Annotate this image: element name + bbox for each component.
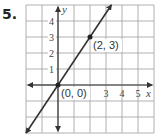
- y-tick-label: 2: [49, 48, 54, 59]
- x-axis-label: x: [145, 87, 151, 99]
- x-tick-label: 3: [104, 88, 109, 99]
- coordinate-graph: (0, 0)(2, 3)3451234xy: [0, 0, 156, 137]
- y-tick-label: 3: [49, 32, 54, 43]
- y-axis-label: y: [61, 3, 67, 15]
- grid: [26, 5, 154, 133]
- y-tick-label: 4: [49, 16, 54, 27]
- point-dot: [88, 35, 93, 40]
- y-tick-label: 1: [49, 64, 54, 75]
- point-label: (0, 0): [61, 87, 87, 99]
- point-label: (2, 3): [93, 39, 119, 51]
- x-tick-label: 4: [120, 88, 125, 99]
- x-tick-label: 5: [136, 88, 141, 99]
- point-dot: [56, 83, 61, 88]
